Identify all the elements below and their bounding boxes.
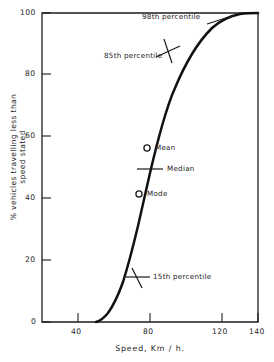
y-axis-title: % vehicles travelling less than speed st… bbox=[9, 87, 27, 227]
annotation-15th-percentile: 15th percentile bbox=[153, 272, 212, 281]
annotation-85th-percentile: 85th percentile bbox=[104, 51, 163, 60]
p15-tick bbox=[132, 268, 142, 288]
annotation-98th-percentile: 98th percentile bbox=[142, 12, 201, 21]
x-tick-label-140: 140 bbox=[249, 327, 265, 336]
annotation-mode: Mode bbox=[147, 189, 168, 198]
y-tick-label-100: 100 bbox=[20, 8, 36, 17]
y-axis-ticks bbox=[42, 13, 51, 322]
x-axis-title: Speed, Km / h. bbox=[42, 344, 258, 353]
annotation-mean: Mean bbox=[155, 143, 176, 152]
x-tick-label-40: 40 bbox=[71, 327, 81, 336]
y-tick-label-20: 20 bbox=[25, 255, 35, 264]
mode-marker bbox=[136, 191, 142, 197]
mean-marker bbox=[144, 145, 150, 151]
x-tick-label-120: 120 bbox=[212, 327, 228, 336]
y-tick-label-0: 0 bbox=[31, 317, 36, 326]
p85-tick bbox=[164, 39, 172, 63]
y-tick-label-80: 80 bbox=[25, 69, 35, 78]
x-tick-label-80: 80 bbox=[143, 327, 153, 336]
cumulative-speed-distribution-chart: 100 80 60 40 20 0 40 80 120 140 % vehicl… bbox=[0, 0, 274, 362]
annotation-median: Median bbox=[167, 164, 195, 173]
